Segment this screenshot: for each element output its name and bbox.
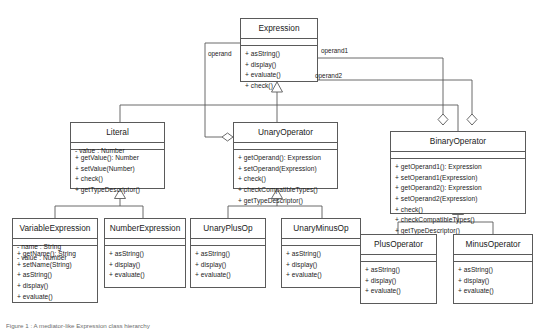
class-operations-unary-operator: + getOperand(): Expression + setOperand(…: [234, 150, 337, 210]
aggregation-diamond-operand: [222, 133, 233, 141]
operation: + getTypeDescriptor(): [238, 196, 333, 207]
uml-diagram-canvas: Expression + asString() + display() + ev…: [0, 0, 538, 332]
class-operations-expression: + asString() + display() + evaluate() + …: [241, 46, 317, 96]
class-unary-operator[interactable]: UnaryOperator + getOperand(): Expression…: [233, 122, 338, 189]
operation: + setOperand(Expression): [238, 164, 333, 175]
aggregation-diamond-operand2: [467, 114, 477, 125]
operation: + check(): [75, 174, 160, 185]
class-name-minus-operator: MinusOperator: [454, 235, 532, 255]
operation: + check(): [245, 81, 313, 92]
operation: + evaluate(): [458, 286, 528, 297]
class-operations-unary-plus-op: + asString() + display() + evaluate(): [191, 246, 265, 287]
class-operations-variable-expression: + getName(): String + setName(String) + …: [13, 246, 97, 306]
class-attributes-expression: [241, 39, 317, 46]
operation: + getTypeDescriptor(): [75, 185, 160, 196]
class-name-expression: Expression: [241, 19, 317, 39]
class-plus-operator[interactable]: PlusOperator + asString() + display() + …: [360, 234, 437, 304]
operation: + checkCompatibleTypes(): [395, 215, 521, 226]
class-binary-operator[interactable]: BinaryOperator + getOperand1(): Expressi…: [390, 131, 526, 214]
operation: + check(): [395, 205, 521, 216]
class-name-plus-operator: PlusOperator: [361, 235, 436, 255]
operation: + asString(): [195, 249, 261, 260]
operation: + evaluate(): [109, 270, 181, 281]
class-operations-binary-operator: + getOperand1(): Expression + setOperand…: [391, 159, 525, 241]
operation: + display(): [17, 281, 93, 292]
operation: + getValue(): Number: [75, 153, 160, 164]
operation: + display(): [365, 276, 432, 287]
operation: + setValue(Number): [75, 164, 160, 175]
operation: + check(): [238, 174, 333, 185]
operation: + asString(): [17, 270, 93, 281]
operation: + setOperand1(Expression): [395, 173, 521, 184]
operation: + asString(): [286, 249, 356, 260]
operation: + asString(): [365, 265, 432, 276]
class-name-variable-expression: VariableExpression: [13, 219, 97, 239]
class-attributes-unary-operator: [234, 143, 337, 150]
operation: + evaluate(): [286, 270, 356, 281]
class-operations-minus-operator: + asString() + display() + evaluate(): [454, 262, 532, 303]
class-operations-plus-operator: + asString() + display() + evaluate(): [361, 262, 436, 303]
class-attributes-unary-minus-op: [282, 239, 360, 246]
operation: + display(): [245, 60, 313, 71]
operation: + setOperand2(Expression): [395, 194, 521, 205]
class-operations-literal: + getValue(): Number + setValue(Number) …: [71, 150, 164, 200]
operation: + asString(): [109, 249, 181, 260]
operation: + getName(): String: [17, 249, 93, 260]
class-attributes-minus-operator: [454, 255, 532, 262]
class-name-binary-operator: BinaryOperator: [391, 132, 525, 152]
class-unary-minus-op[interactable]: UnaryMinusOp + asString() + display() + …: [281, 218, 361, 288]
class-operations-unary-minus-op: + asString() + display() + evaluate(): [282, 246, 360, 287]
class-operations-number-expression: + asString() + display() + evaluate(): [105, 246, 185, 287]
operation: + evaluate(): [245, 70, 313, 81]
class-name-unary-plus-op: UnaryPlusOp: [191, 219, 265, 239]
operation: + display(): [458, 276, 528, 287]
class-minus-operator[interactable]: MinusOperator + asString() + display() +…: [453, 234, 533, 304]
figure-caption: Figure 1 : A mediator-like Expression cl…: [6, 322, 216, 329]
operation: + evaluate(): [365, 286, 432, 297]
class-attributes-literal: - value : Number: [71, 143, 164, 150]
class-literal[interactable]: Literal - value : Number + getValue(): N…: [70, 122, 165, 189]
association-label-operand1: operand1: [321, 47, 348, 54]
operation: + getOperand2(): Expression: [395, 183, 521, 194]
class-expression[interactable]: Expression + asString() + display() + ev…: [240, 18, 318, 82]
class-name-unary-operator: UnaryOperator: [234, 123, 337, 143]
class-attributes-number-expression: [105, 239, 185, 246]
class-name-number-expression: NumberExpression: [105, 219, 185, 239]
class-unary-plus-op[interactable]: UnaryPlusOp + asString() + display() + e…: [190, 218, 266, 288]
operation: + display(): [286, 260, 356, 271]
aggregation-diamond-operand1: [438, 114, 448, 125]
association-label-operand2: operand2: [315, 72, 342, 79]
operation: + checkCompatibleTypes(): [238, 185, 333, 196]
operation: + evaluate(): [17, 292, 93, 303]
operation: + asString(): [458, 265, 528, 276]
association-label-operand: operand: [208, 50, 231, 57]
operation: + asString(): [245, 49, 313, 60]
operation: + getOperand1(): Expression: [395, 162, 521, 173]
class-attributes-unary-plus-op: [191, 239, 265, 246]
operation: + setName(String): [17, 260, 93, 271]
operation: + evaluate(): [195, 270, 261, 281]
class-attributes-binary-operator: [391, 152, 525, 159]
class-number-expression[interactable]: NumberExpression + asString() + display(…: [104, 218, 186, 288]
class-attributes-variable-expression: - name : String - value : Number: [13, 239, 97, 246]
class-name-literal: Literal: [71, 123, 164, 143]
class-name-unary-minus-op: UnaryMinusOp: [282, 219, 360, 239]
operation: + display(): [109, 260, 181, 271]
operation: + display(): [195, 260, 261, 271]
class-attributes-plus-operator: [361, 255, 436, 262]
class-variable-expression[interactable]: VariableExpression - name : String - val…: [12, 218, 98, 303]
operation: + getOperand(): Expression: [238, 153, 333, 164]
